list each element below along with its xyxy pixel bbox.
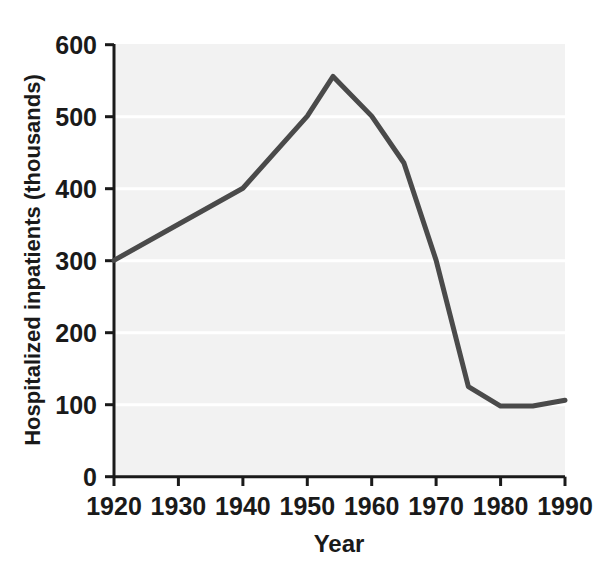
x-tick-label-1960: 1960 xyxy=(344,492,400,520)
x-tick-label-1990: 1990 xyxy=(537,492,593,520)
y-tick-label-200: 200 xyxy=(55,319,97,347)
x-tick-label-1940: 1940 xyxy=(215,492,271,520)
y-tick-label-0: 0 xyxy=(83,463,97,491)
x-tick-label-1920: 1920 xyxy=(86,492,142,520)
x-tick-label-1930: 1930 xyxy=(151,492,207,520)
y-axis-title: Hospitalized inpatients (thousands) xyxy=(20,74,45,446)
y-tick-label-400: 400 xyxy=(55,175,97,203)
x-axis-title: Year xyxy=(314,530,365,557)
y-tick-label-500: 500 xyxy=(55,103,97,131)
y-tick-label-300: 300 xyxy=(55,247,97,275)
x-tick-label-1950: 1950 xyxy=(279,492,335,520)
y-tick-label-600: 600 xyxy=(55,31,97,59)
x-tick-label-1970: 1970 xyxy=(408,492,464,520)
y-tick-label-100: 100 xyxy=(55,391,97,419)
line-chart: 0 100 200 300 400 500 600 1920 1930 1940… xyxy=(0,0,602,569)
x-tick-label-1980: 1980 xyxy=(473,492,529,520)
chart-figure: 0 100 200 300 400 500 600 1920 1930 1940… xyxy=(0,0,602,569)
